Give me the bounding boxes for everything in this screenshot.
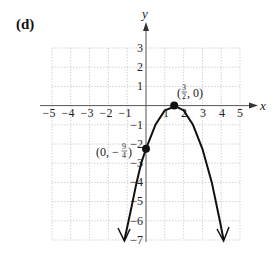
y-tick: 2 (137, 60, 143, 74)
vertex-annotation: ( 3 2 , 0) (177, 83, 203, 101)
y-intercept-annotation: (0, − 9 4 ) (96, 142, 132, 160)
parabola-chart: x y −5 −4 −3 −2 −1 1 2 3 4 5 3 2 1 −1 −2… (0, 0, 273, 255)
x-tick: −4 (62, 106, 75, 120)
vertex-point (170, 102, 178, 110)
x-tick: −5 (43, 106, 56, 120)
vertex-frac-num: 3 (182, 83, 186, 92)
y-tick: 3 (137, 41, 143, 55)
yint-frac-den: 4 (122, 151, 126, 160)
axes (40, 30, 252, 242)
y-axis-arrow-icon (143, 22, 149, 31)
vertex-frac-den: 2 (182, 92, 186, 101)
x-tick: −3 (81, 106, 94, 120)
vertex-label-open: ( (177, 86, 181, 100)
left-arrowhead-icon (118, 228, 130, 241)
y-axis-label: y (140, 6, 148, 21)
y-tick: −7 (130, 233, 143, 247)
x-tick: 5 (237, 106, 243, 120)
x-tick: −2 (100, 106, 113, 120)
y-tick: 1 (137, 79, 143, 93)
yint-label-close: ) (128, 145, 132, 159)
y-tick-labels: 3 2 1 −1 −2 −3 −4 −5 −6 −7 (130, 41, 143, 247)
vertex-label-close: , 0) (187, 86, 203, 100)
yint-label-open: (0, − (96, 145, 119, 159)
yint-frac-num: 9 (122, 142, 126, 151)
y-tick: −2 (130, 137, 143, 151)
x-tick: 3 (200, 106, 206, 120)
x-axis-label: x (259, 98, 266, 113)
x-tick: 4 (219, 106, 225, 120)
y-tick: −1 (130, 118, 143, 132)
x-axis-arrow-icon (249, 103, 258, 109)
y-tick: −6 (130, 214, 143, 228)
y-intercept-point (142, 145, 150, 153)
